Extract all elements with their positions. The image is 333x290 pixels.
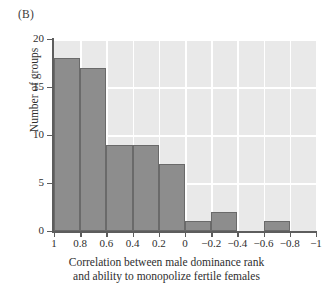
plot-area [54,39,316,231]
y-axis-tick [47,87,52,88]
x-axis-tick-label: −1 [299,237,333,249]
gridline-vertical [316,39,318,231]
x-axis-title-line2: and ability to monopolize fertile female… [0,269,333,283]
y-axis-tick [47,135,52,136]
bar [211,212,237,231]
gridline-vertical [290,39,292,231]
y-axis-tick-label: 10 [4,128,44,140]
bar [80,68,106,231]
bar [106,145,132,231]
bar [185,221,211,231]
gridline-vertical [185,39,187,231]
y-axis-tick-label: 20 [4,32,44,44]
x-axis-title: Correlation between male dominance rank … [0,255,333,283]
y-axis-tick [47,183,52,184]
bar [133,145,159,231]
y-axis-line [52,38,54,232]
y-axis-tick [47,231,52,232]
gridline-vertical [264,39,266,231]
bar [264,221,290,231]
y-axis-tick-label: 5 [4,176,44,188]
bar [159,164,185,231]
gridline-vertical [211,39,213,231]
figure-panel-b: (B) Number of groups 05101520 10.80.60.4… [0,0,333,290]
x-axis-title-line1: Correlation between male dominance rank [0,255,333,269]
bar [54,58,80,231]
y-axis-tick [47,39,52,40]
gridline-vertical [237,39,239,231]
y-axis-tick-label: 15 [4,80,44,92]
y-axis-tick-label: 0 [4,224,44,236]
